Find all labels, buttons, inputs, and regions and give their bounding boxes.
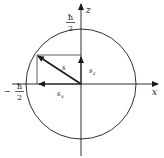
left-minus-sign: − [4, 87, 11, 96]
top-hbar-label: ħ [68, 13, 73, 22]
x-axis-label: x [152, 87, 157, 97]
left-denominator: 2 [17, 93, 22, 102]
top-denominator: 2 [68, 24, 73, 33]
left-hbar-label: ħ [17, 82, 22, 91]
sx-label-sub: x [61, 93, 64, 99]
z-axis-label: z [85, 5, 91, 15]
vector-s-label: s [62, 64, 66, 72]
spin-vector-arrow [38, 56, 81, 84]
spin-vector-diagram: z x ħ 2 − ħ 2 s s z s x [0, 0, 164, 158]
sz-label-sub: z [92, 70, 96, 76]
